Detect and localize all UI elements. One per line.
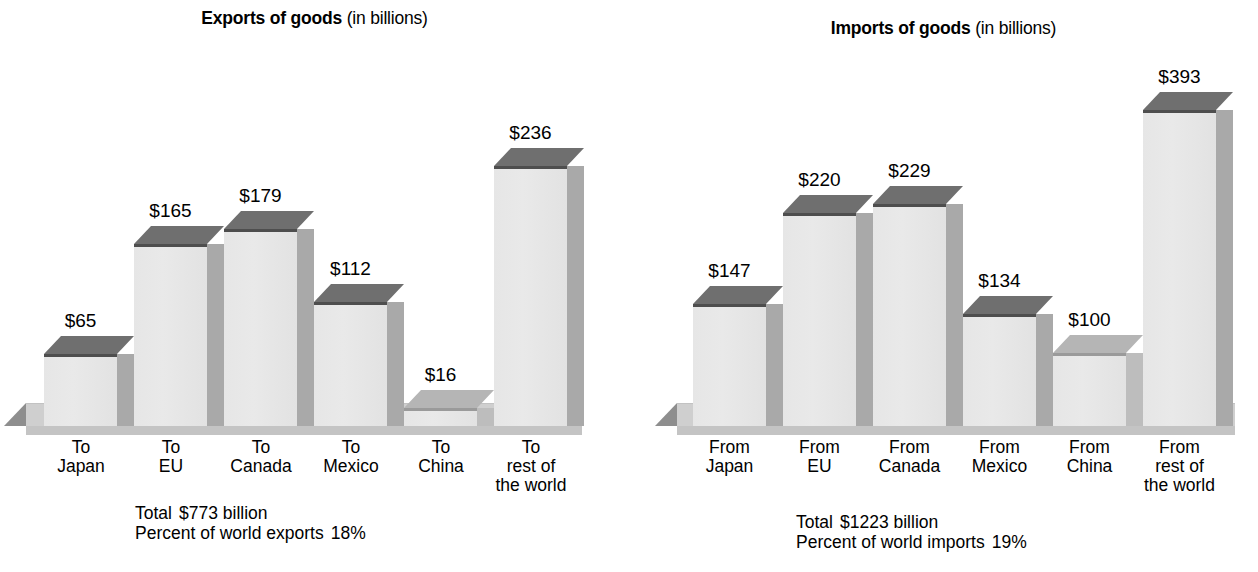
exports-total-value: $773 billion: [179, 503, 268, 523]
bar-value-label: $220: [798, 169, 840, 191]
cat-line-2: Mexico: [952, 457, 1047, 476]
cat-line-2: rest of: [486, 457, 576, 476]
exports-imports-bar-charts-figure: Exports of goods (in billions) $65 $165: [0, 0, 1258, 572]
category-label-to-japan: To Japan: [36, 438, 126, 476]
bar-to-japan: $65: [44, 354, 117, 426]
bar-side-face: [567, 166, 584, 426]
bar-value-label: $112: [330, 258, 371, 280]
bar-from-rest-of-world: $393: [1143, 110, 1216, 426]
cat-line-2: Canada: [216, 457, 306, 476]
exports-title-subtitle: (in billions): [347, 8, 428, 28]
cat-line-1: From: [1042, 438, 1137, 457]
bar-value-label: $179: [239, 185, 281, 207]
cat-line-2: China: [396, 457, 486, 476]
imports-summary: Total$1223 billion Percent of world impo…: [796, 512, 1027, 552]
bar-value-label: $229: [888, 160, 930, 182]
category-label-from-canada: From Canada: [862, 438, 957, 476]
exports-percent-value: 18%: [331, 523, 366, 543]
bar-from-china: $100: [1053, 353, 1126, 426]
bar-side-face: [946, 204, 963, 426]
category-label-to-mexico: To Mexico: [306, 438, 396, 476]
exports-total-row: Total$773 billion: [135, 503, 366, 523]
cat-line-1: To: [216, 438, 306, 457]
category-label-from-eu: From EU: [772, 438, 867, 476]
bar-top-face: [1053, 335, 1143, 353]
bar-from-japan: $147: [693, 304, 766, 426]
cat-line-2: Canada: [862, 457, 957, 476]
cat-line-1: To: [486, 438, 576, 457]
floor-front-edge: [26, 426, 582, 435]
bar-from-canada: $229: [873, 204, 946, 426]
bar-value-label: $147: [708, 260, 750, 282]
bar-front-face: [783, 213, 856, 426]
bar-front-face: [314, 302, 387, 426]
bar-front-face: [224, 229, 297, 426]
bar-value-label: $393: [1158, 66, 1200, 88]
bar-value-label: $65: [65, 310, 97, 332]
imports-chart-panel: Imports of goods (in billions) $147 $220…: [629, 0, 1258, 572]
category-label-to-canada: To Canada: [216, 438, 306, 476]
bar-side-face: [856, 213, 873, 426]
exports-percent-row: Percent of world exports18%: [135, 523, 366, 543]
cat-line-2: EU: [772, 457, 867, 476]
cat-line-1: From: [1132, 438, 1227, 457]
bar-top-face: [783, 195, 873, 213]
cat-line-2: China: [1042, 457, 1137, 476]
bar-top-face: [1143, 92, 1233, 110]
cat-line-1: To: [126, 438, 216, 457]
bar-front-face: [494, 166, 567, 426]
bar-top-face: [314, 284, 404, 302]
bar-to-china: $16: [404, 408, 477, 426]
floor-left-edge: [655, 403, 677, 426]
imports-percent-label: Percent of world imports: [796, 532, 985, 552]
bar-to-canada: $179: [224, 229, 297, 426]
bar-to-eu: $165: [134, 244, 207, 426]
imports-chart-title: Imports of goods (in billions): [629, 18, 1258, 39]
exports-summary: Total$773 billion Percent of world expor…: [135, 503, 366, 543]
cat-line-1: From: [682, 438, 777, 457]
bar-front-face: [404, 408, 477, 426]
bar-side-face: [766, 304, 783, 426]
bar-side-face: [207, 244, 224, 426]
bar-front-face: [693, 304, 766, 426]
exports-chart-panel: Exports of goods (in billions) $65 $165: [0, 0, 629, 572]
cat-line-2: EU: [126, 457, 216, 476]
exports-title-main: Exports of goods: [201, 8, 342, 28]
bar-side-face: [1036, 314, 1053, 426]
bar-top-face: [494, 148, 584, 166]
imports-title-main: Imports of goods: [831, 18, 971, 38]
cat-line-1: From: [772, 438, 867, 457]
bar-side-face: [387, 302, 404, 426]
category-label-from-china: From China: [1042, 438, 1137, 476]
category-label-from-japan: From Japan: [682, 438, 777, 476]
cat-line-1: From: [862, 438, 957, 457]
bar-front-face: [1053, 353, 1126, 426]
cat-line-1: To: [36, 438, 126, 457]
imports-title-subtitle: (in billions): [975, 18, 1056, 38]
bar-top-face: [134, 226, 224, 244]
bar-to-rest-of-world: $236: [494, 166, 567, 426]
imports-total-value: $1223 billion: [840, 512, 938, 532]
cat-line-2: Mexico: [306, 457, 396, 476]
bar-value-label: $100: [1068, 309, 1110, 331]
cat-line-2: Japan: [36, 457, 126, 476]
bar-from-mexico: $134: [963, 314, 1036, 426]
bar-side-face: [117, 354, 134, 426]
bar-front-face: [963, 314, 1036, 426]
cat-line-1: From: [952, 438, 1047, 457]
bar-value-label: $165: [149, 200, 191, 222]
bar-top-face: [224, 211, 314, 229]
bar-value-label: $236: [509, 122, 551, 144]
category-label-from-mexico: From Mexico: [952, 438, 1047, 476]
bar-side-face: [1216, 110, 1233, 426]
exports-percent-label: Percent of world exports: [135, 523, 324, 543]
bar-side-face: [1126, 353, 1143, 426]
bar-front-face: [44, 354, 117, 426]
cat-line-3: the world: [1132, 476, 1227, 495]
bar-top-face: [873, 186, 963, 204]
bar-top-face: [693, 286, 783, 304]
category-label-from-rest-of-world: From rest of the world: [1132, 438, 1227, 495]
exports-chart-title: Exports of goods (in billions): [0, 8, 629, 29]
cat-line-1: To: [306, 438, 396, 457]
cat-line-3: the world: [486, 476, 576, 495]
